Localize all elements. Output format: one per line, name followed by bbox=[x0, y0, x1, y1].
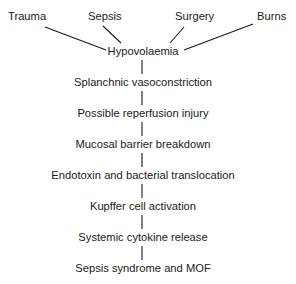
step-sepsis-syndrome-mof: Sepsis syndrome and MOF bbox=[75, 262, 211, 275]
connector-burns bbox=[184, 24, 253, 50]
cause-trauma: Trauma bbox=[8, 10, 46, 23]
step-kupffer-cell-activation: Kupffer cell activation bbox=[90, 200, 196, 213]
step-cytokine-release: Systemic cytokine release bbox=[78, 231, 207, 244]
flowchart-diagram: Trauma Sepsis Surgery Burns Hypovolaemia… bbox=[0, 0, 296, 284]
step-hypovolaemia: Hypovolaemia bbox=[108, 45, 179, 58]
cause-burns: Burns bbox=[257, 10, 286, 23]
step-endotoxin-translocation: Endotoxin and bacterial translocation bbox=[51, 169, 234, 182]
connector-surgery bbox=[170, 27, 184, 43]
step-splanchnic-vasoconstriction: Splanchnic vasoconstriction bbox=[74, 76, 212, 89]
connector-sepsis bbox=[103, 26, 121, 43]
step-reperfusion-injury: Possible reperfusion injury bbox=[77, 107, 208, 120]
connector-trauma bbox=[45, 27, 106, 50]
cause-surgery: Surgery bbox=[175, 10, 214, 23]
cause-sepsis: Sepsis bbox=[88, 10, 122, 23]
step-mucosal-barrier-breakdown: Mucosal barrier breakdown bbox=[76, 138, 211, 151]
